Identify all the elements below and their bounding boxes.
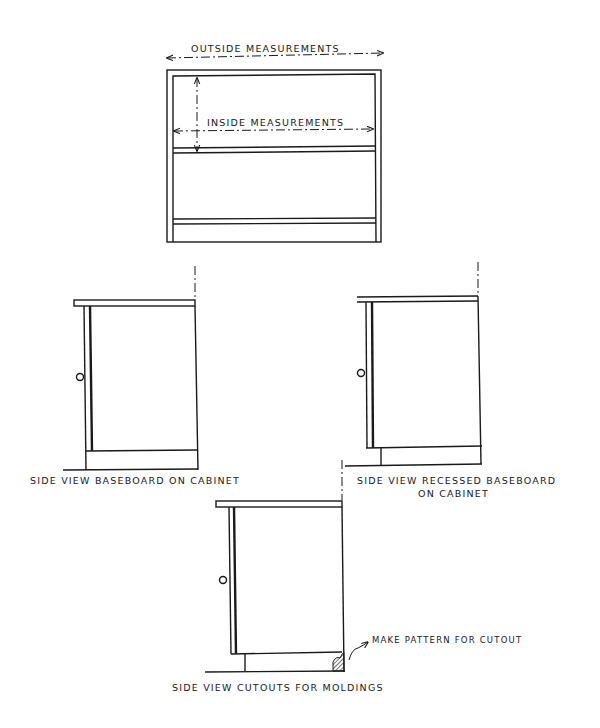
inside-measurements-label: INSIDE MEASUREMENTS: [207, 117, 344, 128]
door-knob: [77, 374, 84, 381]
side-view-1-caption: SIDE VIEW BASEBOARD ON CABINET: [30, 475, 240, 486]
side-view-2-caption-line1: SIDE VIEW RECESSED BASEBOARD: [357, 475, 556, 486]
side-view-baseboard: SIDE VIEW BASEBOARD ON CABINET: [30, 266, 240, 486]
outside-measurements-label: OUTSIDE MEASUREMENTS: [191, 43, 340, 54]
front-view: OUTSIDE MEASUREMENTS INSIDE MEASUREMENTS: [167, 43, 383, 242]
cabinet-inner-frame: [173, 74, 376, 242]
cabinet-outer-frame: [167, 70, 381, 242]
floor-line: [345, 464, 482, 466]
countertop: [74, 300, 195, 306]
cutout-callout-label: MAKE PATTERN FOR CUTOUT: [372, 635, 522, 645]
inside-width-arrow: [174, 129, 373, 131]
floor-line: [205, 671, 345, 672]
door-knob: [220, 577, 227, 584]
side-view-3-caption: SIDE VIEW CUTOUTS FOR MOLDINGS: [172, 682, 384, 693]
side-view-2-caption-line2: ON CABINET: [418, 488, 489, 499]
cabinet-diagram: OUTSIDE MEASUREMENTS INSIDE MEASUREMENTS…: [0, 0, 600, 728]
countertop: [216, 501, 342, 507]
callout-arrow: [349, 642, 368, 660]
molding-cutout-hatched: [333, 652, 344, 671]
door-knob: [358, 370, 365, 377]
floor-line: [63, 469, 198, 470]
side-view-recessed-baseboard: SIDE VIEW RECESSED BASEBOARD ON CABINET: [345, 262, 556, 499]
